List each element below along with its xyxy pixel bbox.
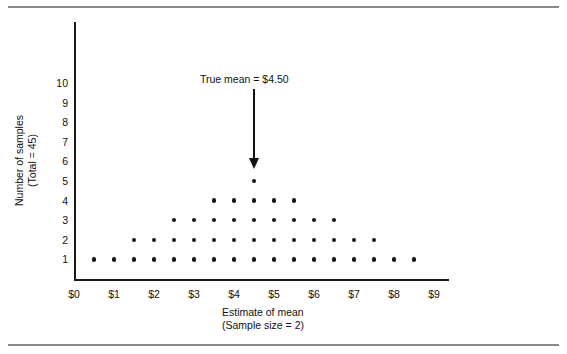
y-tick-label-8: 8 [42, 117, 68, 127]
true-mean-arrow-shaft [253, 89, 255, 159]
data-dot [212, 257, 217, 262]
y-axis-tick-labels: 12345678910 [38, 0, 68, 354]
data-dot [212, 198, 217, 203]
data-dot [352, 238, 357, 243]
x-tick-label-dollar-5: $5 [254, 288, 294, 300]
data-dot [212, 218, 217, 223]
data-dot [232, 238, 237, 243]
data-dot [332, 238, 337, 243]
x-tick-label-dollar-4: $4 [214, 288, 254, 300]
data-dot [172, 218, 177, 223]
x-tick-label-dollar-9: $9 [414, 288, 454, 300]
data-dot [372, 257, 377, 262]
y-tick-label-4: 4 [42, 196, 68, 206]
figure-container: 12345678910 $0$1$2$3$4$5$6$7$8$9 Number … [0, 0, 567, 354]
data-dot [292, 257, 297, 262]
data-dot [192, 218, 197, 223]
data-dot [192, 257, 197, 262]
data-dot [392, 257, 397, 262]
data-dot [312, 218, 317, 223]
data-dot [252, 179, 257, 184]
data-dot [272, 218, 277, 223]
data-dot [332, 257, 337, 262]
x-axis-title-line2: (Sample size = 2) [222, 319, 304, 332]
x-tick-label-dollar-3: $3 [174, 288, 214, 300]
data-dot [412, 257, 417, 262]
data-dot [252, 238, 257, 243]
data-dot [272, 257, 277, 262]
data-dot [132, 238, 137, 243]
data-dot [252, 198, 257, 203]
x-tick-label-dollar-2: $2 [134, 288, 174, 300]
y-axis-title-line1: Number of samples [13, 115, 25, 206]
y-axis-title-line2: (Total = 45) [25, 96, 38, 226]
data-dot [152, 257, 157, 262]
data-dot [112, 257, 117, 262]
y-tick-label-3: 3 [42, 215, 68, 225]
data-dot [292, 198, 297, 203]
data-dot [312, 238, 317, 243]
data-dot [172, 257, 177, 262]
x-axis-title-line1: Estimate of mean [222, 306, 304, 318]
data-dot [312, 257, 317, 262]
x-axis-line [74, 279, 449, 281]
data-dot [212, 238, 217, 243]
data-dot [232, 257, 237, 262]
data-dot [152, 238, 157, 243]
data-dot [172, 238, 177, 243]
x-axis-title: Estimate of mean (Sample size = 2) [222, 306, 304, 331]
data-dot [132, 257, 137, 262]
true-mean-annotation-label: True mean = $4.50 [200, 73, 289, 85]
data-dot [232, 218, 237, 223]
data-dot [272, 198, 277, 203]
y-tick-label-10: 10 [42, 78, 68, 88]
y-axis-line [74, 22, 76, 280]
y-axis-title: Number of samples (Total = 45) [13, 96, 38, 226]
true-mean-arrow-head [249, 158, 259, 169]
y-tick-label-9: 9 [42, 98, 68, 108]
y-tick-label-2: 2 [42, 235, 68, 245]
data-dot [92, 257, 97, 262]
x-tick-label-dollar-0: $0 [54, 288, 94, 300]
data-dot [372, 238, 377, 243]
data-dot [292, 218, 297, 223]
y-tick-label-7: 7 [42, 137, 68, 147]
x-tick-label-dollar-8: $8 [374, 288, 414, 300]
x-tick-label-dollar-7: $7 [334, 288, 374, 300]
data-dot [332, 218, 337, 223]
y-tick-label-6: 6 [42, 156, 68, 166]
data-dot [352, 257, 357, 262]
y-tick-label-5: 5 [42, 176, 68, 186]
data-dot [252, 257, 257, 262]
data-dot [272, 238, 277, 243]
data-dot [192, 238, 197, 243]
figure-top-border [8, 6, 559, 8]
data-dot [252, 218, 257, 223]
figure-bottom-border [8, 344, 559, 346]
y-tick-label-1: 1 [42, 254, 68, 264]
data-dot [292, 238, 297, 243]
data-dot [232, 198, 237, 203]
x-tick-label-dollar-1: $1 [94, 288, 134, 300]
x-tick-label-dollar-6: $6 [294, 288, 334, 300]
